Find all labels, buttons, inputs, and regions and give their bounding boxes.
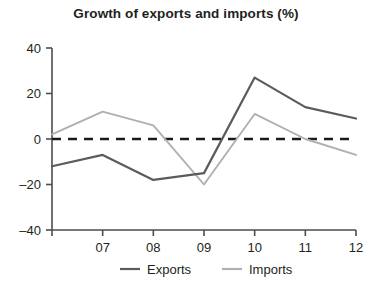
x-axis-tick-label: 12 xyxy=(349,240,363,255)
y-axis: 40200–20–40 xyxy=(19,41,52,238)
legend-label-exports: Exports xyxy=(147,262,192,277)
line-chart-plot: 40200–20–40 070809101112 Exports Imports xyxy=(0,0,372,284)
x-axis-tick-labels: 070809101112 xyxy=(95,240,363,255)
y-axis-tick-label: –20 xyxy=(19,177,41,192)
series-line-exports xyxy=(52,78,356,180)
x-axis-tick-label: 10 xyxy=(247,240,261,255)
y-axis-tick-label: –40 xyxy=(19,223,41,238)
x-axis-tick-label: 07 xyxy=(95,240,109,255)
y-axis-tick-label: 20 xyxy=(27,86,41,101)
x-axis-tick-label: 11 xyxy=(299,240,313,255)
chart-legend: Exports Imports xyxy=(120,262,293,277)
y-axis-ticks xyxy=(46,48,52,230)
legend-label-imports: Imports xyxy=(249,262,293,277)
y-axis-tick-label: 0 xyxy=(34,132,41,147)
y-axis-tick-label: 40 xyxy=(27,41,41,56)
x-axis: 070809101112 xyxy=(52,230,363,255)
x-axis-ticks xyxy=(52,230,356,236)
y-axis-tick-labels: 40200–20–40 xyxy=(19,41,41,238)
x-axis-tick-label: 09 xyxy=(197,240,211,255)
x-axis-tick-label: 08 xyxy=(146,240,160,255)
chart-figure: Growth of exports and imports (%) 40200–… xyxy=(0,0,372,284)
